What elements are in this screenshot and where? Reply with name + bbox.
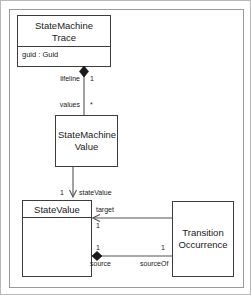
class-statemachine-trace-attributes: guid : Guid	[18, 46, 110, 67]
class-transition-occurrence[interactable]: Transition Occurrence	[172, 201, 234, 277]
class-statemachine-trace[interactable]: StateMachine Trace guid : Guid	[17, 15, 111, 67]
class-statemachine-value-name-line1: StateMachine	[58, 129, 115, 141]
class-state-value-title: StateValue	[23, 201, 91, 217]
class-transition-occurrence-name-line2: Occurrence	[175, 239, 231, 251]
label-values: values	[54, 101, 80, 109]
label-source-of: sourceOf	[140, 260, 168, 268]
mult-source: 1	[96, 244, 100, 252]
attribute-guid: guid : Guid	[22, 50, 106, 60]
label-state-value: stateValue	[79, 189, 112, 197]
class-statemachine-trace-name-line1: StateMachine	[20, 20, 108, 32]
class-transition-occurrence-name-line1: Transition	[175, 227, 231, 239]
class-statemachine-trace-title: StateMachine Trace	[18, 16, 110, 46]
label-lifeline: lifeline	[54, 75, 80, 83]
mult-state-value: 1	[60, 189, 64, 197]
class-state-value-body	[23, 217, 91, 276]
mult-values: *	[90, 101, 93, 109]
label-target: target	[96, 206, 114, 214]
class-statemachine-trace-name-line2: Trace	[20, 32, 108, 44]
mult-target: 1	[96, 222, 100, 230]
class-state-value-name-line1: StateValue	[25, 204, 89, 216]
label-source: source	[90, 260, 111, 268]
mult-source-of: 1	[161, 244, 165, 252]
class-statemachine-value-name-line2: Value	[58, 141, 115, 153]
mult-lifeline: 1	[90, 75, 94, 83]
class-transition-occurrence-title: Transition Occurrence	[173, 202, 233, 254]
class-state-value[interactable]: StateValue	[22, 200, 92, 277]
class-statemachine-value-title: StateMachine Value	[56, 116, 117, 156]
diagram-canvas: StateMachine Trace guid : Guid StateMach…	[0, 0, 251, 295]
class-statemachine-value[interactable]: StateMachine Value	[55, 115, 118, 167]
